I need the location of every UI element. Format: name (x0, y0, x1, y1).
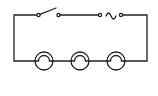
lamp-icon (35, 52, 53, 70)
lamp-icon (107, 52, 125, 70)
lamp-icon (71, 52, 89, 70)
wire-right (123, 15, 147, 61)
wire-left (14, 15, 37, 61)
ac-source-icon (98, 13, 122, 19)
switch-open-icon (37, 8, 60, 17)
circuit-diagram (0, 0, 158, 96)
